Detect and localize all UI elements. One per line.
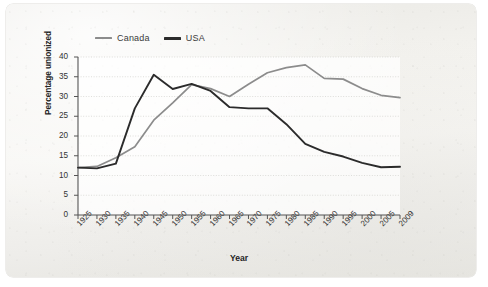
gridline-group: [78, 57, 400, 195]
x-tick-mark-group: [78, 215, 400, 219]
data-series-group: [78, 65, 400, 168]
series-line-usa: [78, 75, 400, 169]
figure-page: Canada USA Percentage unionized Year 051…: [0, 0, 488, 287]
line-chart-plot: [0, 0, 488, 287]
y-tick-mark-group: [74, 57, 78, 215]
